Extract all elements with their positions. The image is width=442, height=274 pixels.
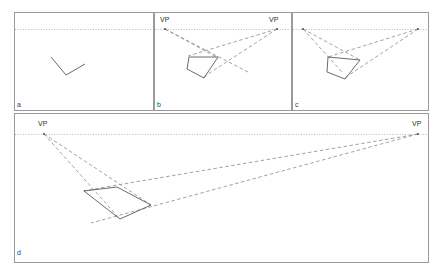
shape-a — [51, 57, 85, 75]
construction-line-d-0 — [44, 134, 119, 218]
panel-letter-b: b — [157, 101, 161, 109]
panel-a — [15, 13, 154, 111]
panel-frame-c — [293, 13, 429, 111]
vp-label-b-1: VP — [269, 16, 278, 24]
vp-right-marker-d — [417, 133, 419, 135]
vp-left-marker-c — [302, 28, 304, 30]
panel-letter-a: a — [17, 101, 21, 109]
shape-b — [187, 57, 218, 78]
panel-letter-d: d — [17, 249, 21, 257]
construction-line-b-3 — [202, 29, 277, 78]
panel-frame-a — [15, 13, 154, 111]
panel-d — [15, 114, 429, 263]
figure-canvas — [0, 0, 442, 274]
panel-frame-b — [155, 13, 292, 111]
construction-line-c-0 — [303, 29, 360, 60]
vp-right-marker-c — [417, 28, 419, 30]
vp-label-d-1: VP — [412, 120, 421, 128]
construction-line-c-3 — [343, 29, 418, 79]
vp-label-d-0: VP — [38, 120, 47, 128]
perspective-figure: abVPVPcdVPVP — [0, 0, 442, 274]
construction-line-b-2 — [188, 29, 277, 56]
panel-frame-d — [15, 114, 429, 263]
panel-letter-c: c — [295, 101, 299, 109]
construction-line-c-2 — [328, 29, 418, 57]
panel-c — [293, 13, 429, 111]
vp-left-marker-b — [164, 28, 166, 30]
vp-left-marker-d — [43, 133, 45, 135]
shape-d — [84, 187, 151, 219]
vp-right-marker-b — [276, 28, 278, 30]
construction-line-d-2 — [82, 134, 418, 191]
panel-b — [155, 13, 292, 111]
shape-c — [327, 57, 360, 79]
construction-line-c-1 — [303, 29, 342, 72]
vp-label-b-0: VP — [160, 16, 169, 24]
